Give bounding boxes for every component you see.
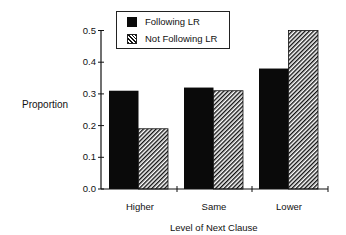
- x-axis-label: Level of Next Clause: [170, 222, 258, 233]
- y-tick-label: 0.0: [66, 183, 96, 194]
- legend: Following LR Not Following LR: [116, 11, 230, 49]
- y-tick-label: 0.4: [66, 56, 96, 67]
- bar-same-not-following: [214, 91, 244, 189]
- bar-lower-not-following: [289, 31, 319, 190]
- legend-item-not-following: Not Following LR: [127, 33, 217, 44]
- solid-swatch-icon: [127, 17, 137, 27]
- bar-higher-not-following: [139, 129, 169, 189]
- legend-label: Following LR: [145, 16, 200, 27]
- x-tick-label-lower: Lower: [259, 201, 319, 212]
- bar-lower-following: [259, 69, 289, 189]
- y-tick-label: 0.2: [66, 120, 96, 131]
- bar-higher-following: [109, 91, 139, 189]
- legend-item-following: Following LR: [127, 16, 200, 27]
- x-tick-label-same: Same: [184, 201, 244, 212]
- y-tick-label: 0.5: [66, 25, 96, 36]
- bars-group: [109, 31, 318, 190]
- x-tick-label-higher: Higher: [110, 201, 170, 212]
- y-tick-label: 0.1: [66, 151, 96, 162]
- y-tick-label: 0.3: [66, 88, 96, 99]
- bar-same-following: [184, 88, 214, 189]
- legend-label: Not Following LR: [145, 33, 217, 44]
- hatched-swatch-icon: [127, 34, 137, 44]
- y-axis-label: Proportion: [22, 99, 68, 110]
